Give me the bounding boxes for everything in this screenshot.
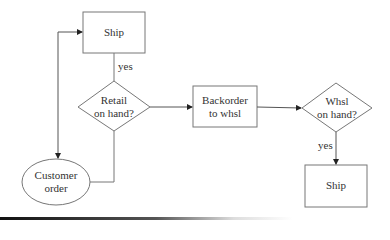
backorder-label-line2: to whsl — [193, 107, 257, 120]
backorder-label: Backorder to whsl — [193, 94, 257, 120]
retail-label: Retail on hand? — [78, 94, 150, 120]
customer-label-line2: order — [22, 182, 90, 195]
ship-bottom-label: Ship — [305, 179, 367, 192]
edge-customer-to-retail — [90, 131, 114, 182]
edge-backorder-to-whsl — [257, 107, 301, 108]
whsl-label: Whsl on hand? — [302, 95, 372, 121]
customer-order-label: Customer order — [22, 169, 90, 195]
backorder-label-line1: Backorder — [193, 94, 257, 107]
customer-label-line1: Customer — [22, 169, 90, 182]
whsl-label-line1: Whsl — [302, 95, 372, 108]
retail-label-line2: on hand? — [78, 107, 150, 120]
retail-label-line1: Retail — [78, 94, 150, 107]
whsl-label-line2: on hand? — [302, 108, 372, 121]
bottom-rule — [0, 217, 390, 220]
ship-top-label: Ship — [83, 26, 145, 39]
yes-label-retail: yes — [118, 60, 133, 73]
yes-label-whsl: yes — [318, 139, 333, 152]
